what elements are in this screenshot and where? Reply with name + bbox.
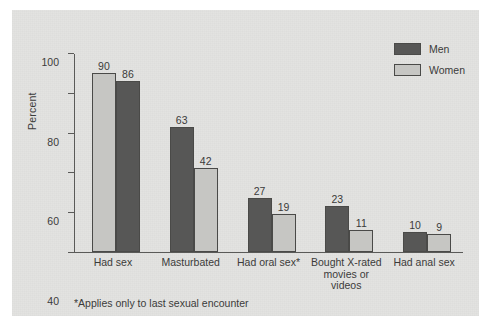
y-tick-mark: 0	[68, 252, 74, 253]
legend-swatch-men-icon	[394, 43, 421, 55]
bar-women-2[interactable]: 19	[272, 214, 296, 252]
bar-value-label: 86	[122, 68, 134, 80]
x-category-label-line: Had anal sex	[379, 257, 469, 269]
y-axis-line	[74, 54, 75, 253]
bar-men-0[interactable]: 90	[92, 73, 116, 252]
x-category-label-1: Masturbated	[146, 257, 236, 269]
legend-label-women: Women	[429, 64, 465, 76]
x-category-label-line: Had oral sex*	[224, 257, 314, 269]
x-axis-line	[74, 252, 463, 253]
x-category-label-2: Had oral sex*	[224, 257, 314, 269]
bar-value-label: 19	[278, 201, 290, 213]
bar-value-label: 90	[98, 60, 110, 72]
legend-label-men: Men	[429, 43, 449, 55]
bar-women-1[interactable]: 42	[194, 168, 218, 252]
y-tick-mark: 100	[68, 53, 74, 54]
x-category-label-line: Had sex	[68, 257, 158, 269]
bar-women-3[interactable]: 11	[349, 230, 373, 252]
y-tick-label: 40	[47, 295, 59, 307]
bar-women-4[interactable]: 9	[427, 234, 451, 252]
bar-value-label: 63	[176, 114, 188, 126]
bar-men-4[interactable]: 10	[403, 232, 427, 252]
y-tick-label: 100	[41, 56, 59, 68]
bar-value-label: 11	[356, 217, 367, 229]
legend-swatch-women-icon	[394, 64, 421, 76]
bar-women-0[interactable]: 86	[116, 81, 140, 252]
y-tick-mark: 80	[68, 93, 74, 94]
bar-value-label: 10	[409, 219, 421, 231]
x-category-label-4: Had anal sex	[379, 257, 469, 269]
x-category-label-3: Bought X-ratedmovies orvideos	[301, 257, 391, 292]
x-category-label-line: Bought X-rated	[301, 257, 391, 269]
y-axis-title: Percent	[26, 92, 38, 130]
y-tick-label: 60	[47, 215, 59, 227]
bar-value-label: 27	[254, 185, 266, 197]
bar-value-label: 42	[200, 155, 212, 167]
bar-men-2[interactable]: 27	[248, 198, 272, 252]
x-category-label-line: videos	[301, 280, 391, 292]
x-category-label-0: Had sex	[68, 257, 158, 269]
y-tick-mark: 40	[68, 172, 74, 173]
y-tick-label: 80	[47, 136, 59, 148]
bar-value-label: 23	[331, 193, 343, 205]
bar-value-label: 9	[436, 221, 442, 233]
bar-men-3[interactable]: 23	[325, 206, 349, 252]
chart-footnote: *Applies only to last sexual encounter	[74, 297, 249, 309]
y-tick-mark: 60	[68, 133, 74, 134]
bar-men-1[interactable]: 63	[170, 127, 194, 252]
legend-item-women[interactable]: Women	[394, 61, 465, 78]
x-category-label-line: Masturbated	[146, 257, 236, 269]
legend-item-men[interactable]: Men	[394, 40, 465, 57]
chart-legend: Men Women	[394, 40, 465, 82]
chart-figure: 020406080100 9086634227192311109 Had sex…	[12, 10, 479, 316]
y-tick-mark: 20	[68, 212, 74, 213]
